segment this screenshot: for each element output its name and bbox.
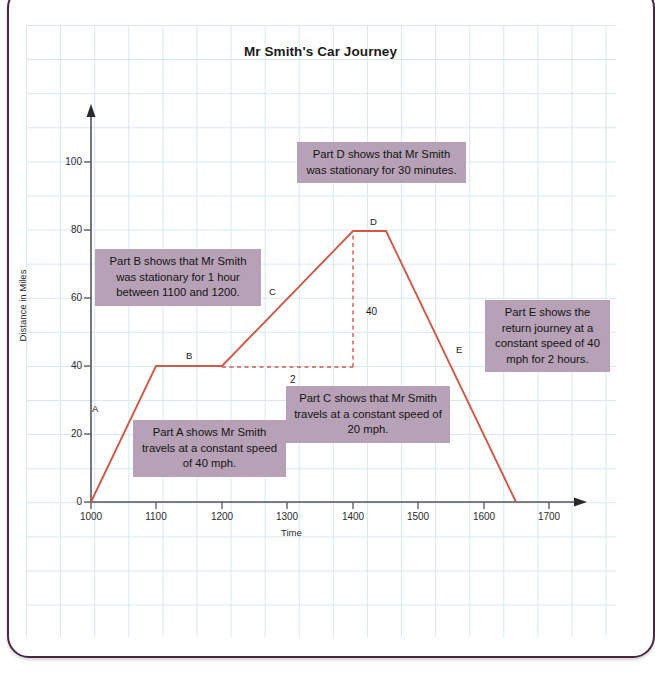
gradient-rise-label: 40 [366, 306, 377, 317]
point-label-a: A [92, 403, 98, 414]
y-axis-ticks [84, 162, 91, 502]
point-label-b: B [186, 350, 192, 361]
callout-part-c: Part C shows that Mr Smith travels at a … [286, 386, 450, 443]
callout-part-e: Part E shows the return journey at a con… [485, 300, 610, 372]
callout-part-d: Part D shows that Mr Smith was stationar… [297, 142, 466, 183]
x-axis-ticks [91, 502, 549, 509]
callout-part-b: Part B shows that Mr Smith was stationar… [95, 249, 261, 306]
callout-part-a: Part A shows Mr Smith travels at a const… [133, 420, 286, 477]
point-label-e: E [456, 344, 462, 355]
x-axis-arrow-icon [574, 498, 587, 507]
y-axis-arrow-icon [87, 104, 96, 117]
point-label-c: C [269, 286, 276, 297]
point-label-d: D [370, 216, 377, 227]
gradient-run-label: 2 [290, 374, 296, 385]
